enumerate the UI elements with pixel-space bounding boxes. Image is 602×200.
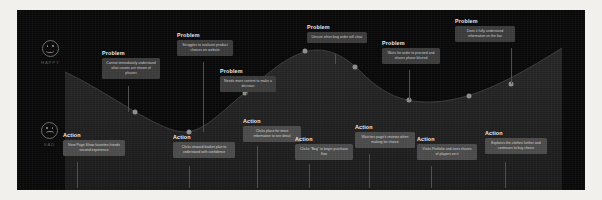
axis-label-happy: HAPPY (41, 40, 60, 65)
problem-text: Cannot immediately understand what count… (102, 58, 160, 79)
action-text: Clicks "Bag" to begin purchase flow (295, 144, 353, 160)
leader-line (203, 62, 204, 132)
problem-title: Problem (102, 50, 160, 56)
action-callout-7[interactable]: Action Explores the clothes further and … (485, 130, 547, 154)
problem-callout-5[interactable]: Problem Waits for order to proceed and s… (382, 40, 440, 64)
action-callout-4[interactable]: Action Clicks "Bag" to begin purchase fl… (295, 136, 353, 160)
leader-line (189, 166, 190, 188)
action-callout-6[interactable]: Action Visits Portfolio and sees shares … (417, 136, 477, 160)
chart-canvas: HAPPY SAD Problem Cannot immediately und… (17, 10, 585, 190)
leader-line (77, 162, 78, 188)
curve-marker[interactable] (303, 49, 308, 54)
action-callout-1[interactable]: Action View Page Show favorites friends … (63, 132, 125, 156)
axis-label-happy-text: HAPPY (41, 60, 60, 65)
problem-text: Does it fully understand information on … (455, 26, 515, 42)
action-title: Action (485, 130, 547, 136)
leader-line (257, 146, 258, 188)
leader-line (511, 48, 512, 84)
action-text: Explores the clothes further and continu… (485, 138, 547, 154)
problem-callout-4[interactable]: Problem Unsure when bag order will clear (307, 24, 367, 43)
problem-title: Problem (455, 18, 515, 24)
problem-text: Waits for order to proceed and shares ph… (382, 48, 440, 64)
problem-text: Struggles to evaluate product choices on… (177, 40, 233, 56)
problem-callout-2[interactable]: Problem Struggles to evaluate product ch… (177, 32, 233, 56)
curve-marker[interactable] (353, 65, 358, 70)
action-text: Clicks onward basket plan to understand … (173, 142, 235, 158)
leader-line (309, 164, 310, 188)
problem-callout-1[interactable]: Problem Cannot immediately understand wh… (102, 50, 160, 79)
problem-text: Needs more content to make a decision (220, 76, 276, 92)
problem-title: Problem (382, 40, 440, 46)
leader-line (409, 70, 410, 100)
problem-callout-6[interactable]: Problem Does it fully understand informa… (455, 18, 515, 42)
leader-line (505, 162, 506, 188)
smiley-happy-icon (42, 40, 59, 57)
action-callout-5[interactable]: Action Watches page's reviews when makin… (355, 124, 415, 148)
problem-title: Problem (220, 68, 276, 74)
problem-text: Unsure when bag order will clear (307, 32, 367, 43)
curve-marker[interactable] (467, 94, 472, 99)
axis-label-sad: SAD (41, 122, 58, 147)
action-title: Action (243, 118, 301, 124)
action-text: View Page Show favorites friends second … (63, 140, 125, 156)
leader-line (335, 54, 336, 64)
axis-label-sad-text: SAD (44, 142, 55, 147)
curve-marker[interactable] (133, 110, 138, 115)
problem-title: Problem (307, 24, 367, 30)
smiley-sad-icon (41, 122, 58, 139)
action-title: Action (355, 124, 415, 130)
leader-line (128, 86, 129, 112)
leader-line (369, 154, 370, 188)
action-title: Action (63, 132, 125, 138)
action-text: Watches page's reviews when making for c… (355, 132, 415, 148)
action-title: Action (417, 136, 477, 142)
journey-map-figure: HAPPY SAD Problem Cannot immediately und… (0, 0, 602, 200)
problem-title: Problem (177, 32, 233, 38)
action-title: Action (173, 134, 235, 140)
action-title: Action (295, 136, 353, 142)
action-callout-2[interactable]: Action Clicks onward basket plan to unde… (173, 134, 235, 158)
action-text: Visits Portfolio and sees shares of play… (417, 144, 477, 160)
problem-callout-3[interactable]: Problem Needs more content to make a dec… (220, 68, 276, 92)
leader-line (431, 166, 432, 188)
action-callout-3[interactable]: Action Clicks place for more information… (243, 118, 301, 142)
leader-line (246, 93, 247, 95)
action-text: Clicks place for more information to see… (243, 126, 301, 142)
